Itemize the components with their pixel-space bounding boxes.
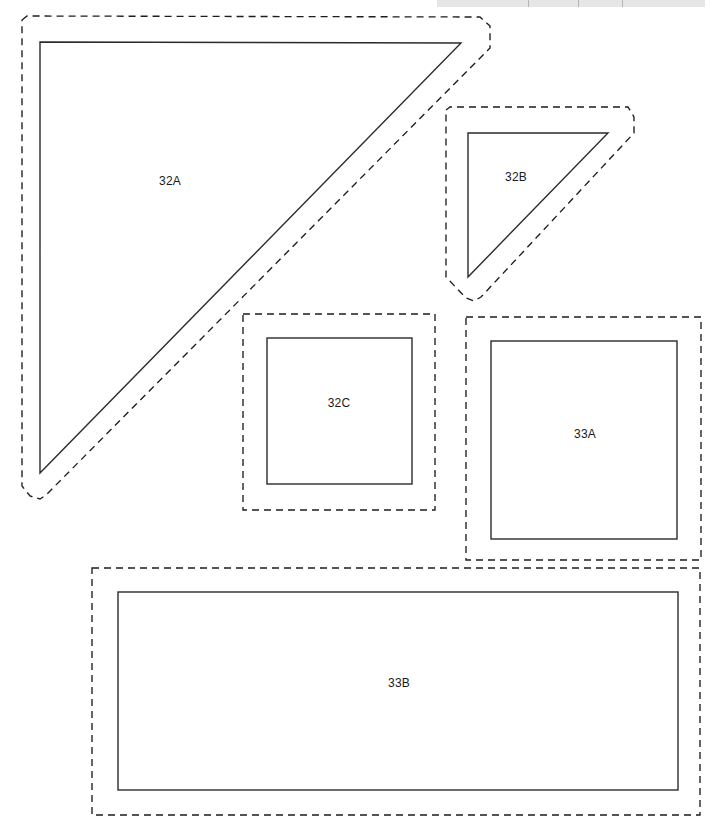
part-group-33b[interactable]: 33B [92,568,700,815]
part-label-33a: 33A [574,427,596,441]
part-group-33a[interactable]: 33A [466,317,701,560]
part-outline-32b[interactable] [468,133,608,277]
part-outline-33b[interactable] [118,592,678,790]
part-label-33b: 33B [388,676,410,690]
nesting-layout-diagram: 32A 32B 32C 33A 33B [0,0,721,830]
part-group-32b[interactable]: 32B [446,107,634,301]
toolbar-tick [578,0,579,7]
part-group-32a[interactable]: 32A [22,16,490,499]
toolbar-tick [622,0,623,7]
part-outline-32c[interactable] [267,338,412,484]
part-label-32b: 32B [505,170,527,184]
part-label-32a: 32A [159,174,181,188]
part-group-32c[interactable]: 32C [243,314,435,510]
diagram-canvas: 32A 32B 32C 33A 33B [0,0,721,830]
part-label-32c: 32C [328,396,351,410]
toolbar-tick [528,0,529,7]
